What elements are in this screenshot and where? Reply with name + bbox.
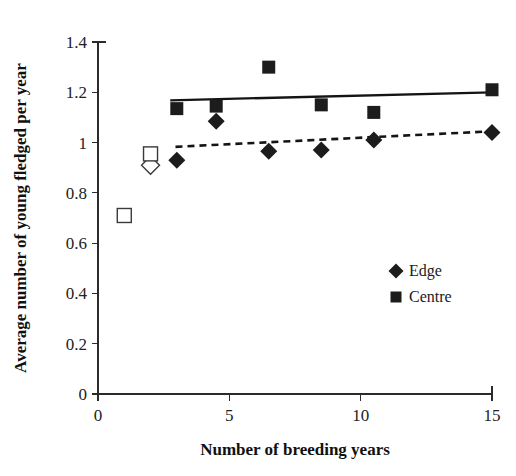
trendline-solid	[170, 92, 492, 100]
data-point-centre	[170, 102, 183, 115]
legend-label: Centre	[409, 288, 452, 305]
y-axis-tick-labels: 00.20.40.60.811.21.4	[66, 33, 88, 404]
x-axis-title: Number of breeding years	[200, 440, 390, 459]
x-tick-label: 0	[94, 406, 103, 425]
data-point-centre	[262, 61, 275, 74]
scatter-plot: 00.20.40.60.811.21.4 051015 Number of br…	[0, 0, 516, 476]
data-point-edge	[208, 113, 225, 130]
y-tick-label: 0	[79, 385, 88, 404]
y-tick-label: 0.6	[66, 234, 87, 253]
data-point-edge	[484, 124, 501, 141]
data-point-centre	[315, 98, 328, 111]
legend-label: Edge	[409, 262, 442, 280]
data-point-centre	[486, 83, 499, 96]
x-tick-label: 5	[225, 406, 234, 425]
x-tick-label: 15	[484, 406, 501, 425]
x-tick-label: 10	[352, 406, 369, 425]
data-point-edge	[313, 142, 330, 159]
chart-container: 00.20.40.60.811.21.4 051015 Number of br…	[0, 0, 516, 476]
y-tick-label: 0.8	[66, 184, 87, 203]
chart-legend: EdgeCentre	[389, 262, 452, 305]
data-point-centre-open	[117, 208, 131, 222]
legend-marker-diamond	[389, 264, 404, 279]
data-point-edge	[365, 132, 382, 149]
data-point-centre	[367, 106, 380, 119]
axis-tick-marks	[92, 42, 492, 401]
trendline-dashed	[175, 131, 492, 147]
data-point-centre-open	[144, 147, 158, 161]
y-tick-label: 0.4	[66, 284, 88, 303]
y-tick-label: 1.2	[66, 83, 87, 102]
y-tick-label: 1.4	[66, 33, 88, 52]
y-tick-label: 0.2	[66, 335, 87, 354]
data-point-centre	[210, 100, 223, 113]
y-axis-title: Average number of young fledged per year	[11, 63, 30, 373]
data-point-edge	[168, 152, 185, 169]
data-point-edge	[260, 143, 277, 160]
x-axis-tick-labels: 051015	[94, 406, 501, 425]
legend-marker-square	[391, 292, 402, 303]
y-tick-label: 1	[79, 134, 88, 153]
